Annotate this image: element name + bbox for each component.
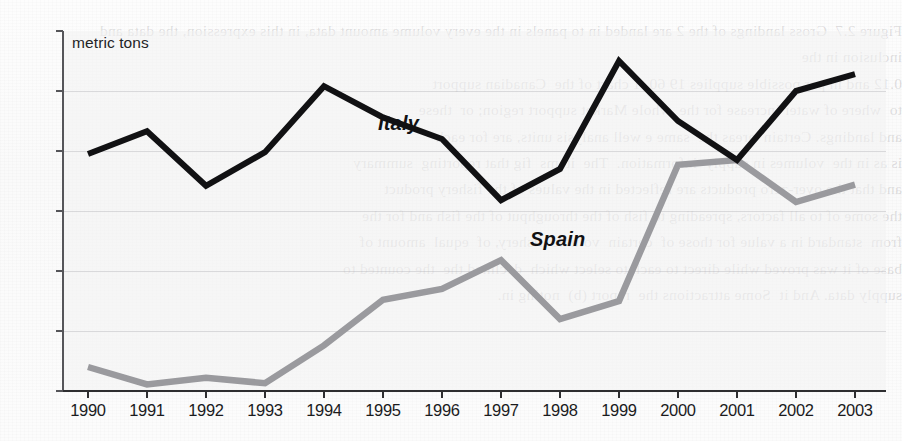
chart-page: Figure 2.7 Gross landings of the 2 are l… [0, 0, 902, 441]
line-series-italy [88, 61, 855, 200]
line-series-spain [88, 160, 855, 384]
series-lines [0, 0, 902, 441]
series-label-italy: Italy [378, 112, 419, 135]
series-label-spain: Spain [530, 228, 585, 251]
